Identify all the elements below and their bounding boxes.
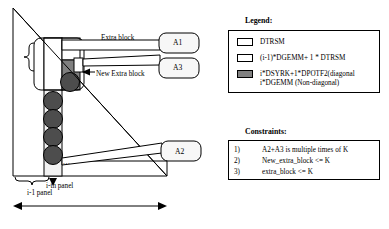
constraint-row: 3) extra_block <= K <box>234 168 313 176</box>
legend-item-dtrsm: DTRSM <box>237 38 285 47</box>
block-circle <box>44 92 63 111</box>
legend-panel: DTRSM (i-1)*DGEMM+ 1 * DTRSM i*DSYRK+1*D… <box>228 30 380 93</box>
legend-item-dgemm-dtrsm: (i-1)*DGEMM+ 1 * DTRSM <box>237 54 345 63</box>
block-circle <box>44 146 63 165</box>
callout-label-a2: A2 <box>175 148 184 156</box>
dtrsm-block <box>44 38 62 90</box>
legend-item-label: DTRSM <box>260 38 285 47</box>
legend-title: Legend: <box>245 17 272 25</box>
constraint-row: 2) New_extra_block <= K <box>234 157 330 165</box>
legend-item-label-line1: i*DSYRK+1*DPOTF2(diagonal <box>260 70 355 78</box>
left-brace <box>24 43 34 71</box>
callout-label-a1: A1 <box>173 39 182 47</box>
new-extra-block-notch <box>74 58 83 72</box>
ellipsis-label: ... <box>63 158 70 166</box>
legend-item-label: (i-1)*DGEMM+ 1 * DTRSM <box>260 54 345 63</box>
new-extra-block-label: New Extra block <box>96 71 145 78</box>
width-dimension-arrow <box>13 202 167 210</box>
i-minus-1-panel-label: i-1 panel <box>27 190 52 197</box>
callout-label-a3: A3 <box>173 64 182 72</box>
constraint-text: New_extra_block <= K <box>262 157 330 165</box>
constraints-panel: 1) A2+A3 is multiple times of K 2) New_e… <box>228 140 380 180</box>
legend-item-dsyrk-dpotf2: i*DSYRK+1*DPOTF2(diagonal i*DGEMM (Non-d… <box>237 70 355 87</box>
bottom-brace-i-minus-1 <box>15 177 49 185</box>
constraint-text: extra_block <= K <box>262 168 313 176</box>
constraint-row: 1) A2+A3 is multiple times of K <box>234 146 348 154</box>
legend-swatch-gray-icon <box>237 70 253 78</box>
constraint-number: 1) <box>234 146 262 154</box>
constraint-text: A2+A3 is multiple times of K <box>262 146 348 154</box>
block-circle <box>44 128 63 147</box>
constraint-number: 3) <box>234 168 262 176</box>
block-circle <box>44 110 63 129</box>
extra-block-label: Extra block <box>101 35 134 42</box>
legend-item-label-multiline: i*DSYRK+1*DPOTF2(diagonal i*DGEMM (Non-d… <box>260 70 355 87</box>
legend-item-label-line2: i*DGEMM (Non-diagonal) <box>260 79 339 87</box>
block-circle <box>61 73 80 92</box>
legend-swatch-white-icon <box>237 38 253 46</box>
constraints-title: Constraints: <box>245 128 287 136</box>
constraint-number: 2) <box>234 157 262 165</box>
figure-root: Extra block New Extra block A1 A3 A2 ...… <box>0 0 389 229</box>
legend-swatch-white-icon <box>237 54 253 62</box>
